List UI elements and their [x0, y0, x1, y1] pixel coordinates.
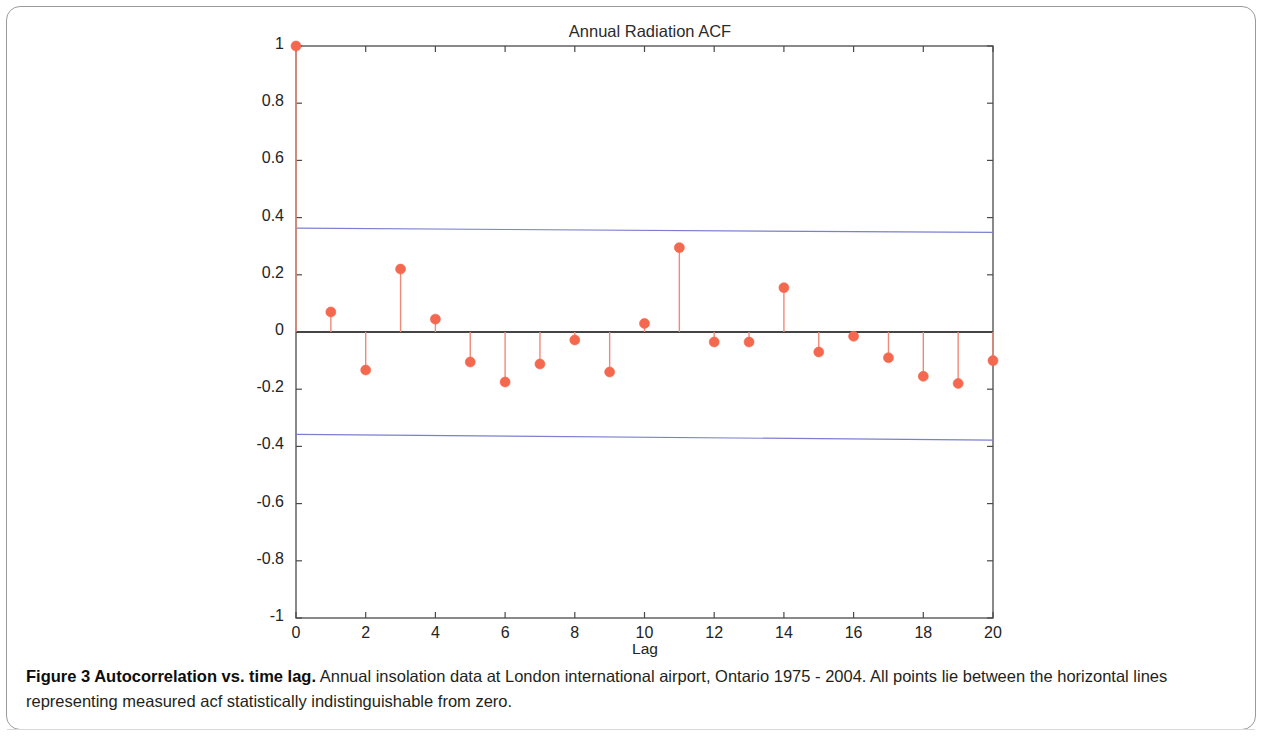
x-tick-label: 0 — [276, 624, 316, 642]
y-tick-label: -0.2 — [224, 378, 284, 396]
acf-marker — [605, 367, 615, 377]
acf-marker — [500, 377, 510, 387]
bottom-divider — [7, 729, 1255, 730]
acf-marker — [326, 307, 336, 317]
y-tick-label: 0.2 — [224, 264, 284, 282]
y-tick-label: 0.4 — [224, 207, 284, 225]
confidence-line-lower — [296, 434, 993, 440]
acf-marker — [361, 365, 371, 375]
acf-marker — [744, 337, 754, 347]
acf-marker — [535, 359, 545, 369]
acf-marker — [465, 357, 475, 367]
y-tick-label: -0.6 — [224, 493, 284, 511]
confidence-line-upper — [296, 228, 993, 232]
chart-canvas — [0, 0, 1266, 660]
x-tick-label: 12 — [694, 624, 734, 642]
y-tick-label: 0.8 — [224, 92, 284, 110]
acf-chart: Annual Radiation ACF Lag -1-0.8-0.6-0.4-… — [0, 0, 1266, 660]
x-tick-label: 2 — [346, 624, 386, 642]
y-tick-label: -0.8 — [224, 550, 284, 568]
acf-marker — [291, 41, 301, 51]
y-tick-label: -1 — [224, 607, 284, 625]
y-tick-label: 0 — [224, 321, 284, 339]
acf-marker — [396, 264, 406, 274]
acf-marker — [988, 356, 998, 366]
acf-marker — [430, 314, 440, 324]
acf-marker — [883, 353, 893, 363]
x-tick-label: 20 — [973, 624, 1013, 642]
acf-marker — [779, 283, 789, 293]
y-tick-label: 0.6 — [224, 149, 284, 167]
x-tick-label: 4 — [415, 624, 455, 642]
acf-marker — [814, 347, 824, 357]
acf-marker — [709, 337, 719, 347]
figure-caption: Figure 3 Autocorrelation vs. time lag. A… — [26, 664, 1231, 714]
x-tick-label: 16 — [834, 624, 874, 642]
x-tick-label: 10 — [625, 624, 665, 642]
x-axis-label: Lag — [0, 640, 1266, 658]
y-tick-label: -0.4 — [224, 435, 284, 453]
x-tick-label: 6 — [485, 624, 525, 642]
acf-marker — [640, 318, 650, 328]
figure-caption-title: Figure 3 Autocorrelation vs. time lag. — [26, 667, 316, 685]
x-tick-label: 18 — [903, 624, 943, 642]
acf-marker — [849, 331, 859, 341]
acf-marker — [570, 335, 580, 345]
acf-marker — [674, 243, 684, 253]
y-tick-label: 1 — [224, 35, 284, 53]
acf-marker — [953, 378, 963, 388]
acf-marker — [918, 371, 928, 381]
figure-area: Annual Radiation ACF Lag -1-0.8-0.6-0.4-… — [0, 0, 1266, 655]
x-tick-label: 14 — [764, 624, 804, 642]
x-tick-label: 8 — [555, 624, 595, 642]
